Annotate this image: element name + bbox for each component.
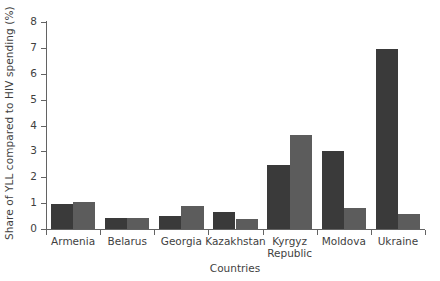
x-axis-tick <box>154 230 155 235</box>
x-axis-tick <box>46 230 47 235</box>
x-axis-tick <box>425 230 426 235</box>
bar <box>73 202 95 229</box>
x-axis-line <box>46 229 425 230</box>
bar <box>267 165 289 229</box>
y-axis-tick-label: 8 <box>30 15 37 28</box>
bar <box>127 218 149 229</box>
y-axis-tick-label: 1 <box>30 196 37 209</box>
bar <box>322 151 344 229</box>
x-axis-tick <box>371 230 372 235</box>
y-axis-tick-label: 4 <box>30 119 37 132</box>
y-axis-tick-label: 2 <box>30 170 37 183</box>
bar <box>213 212 235 229</box>
y-axis-tick-label: 0 <box>30 222 37 235</box>
x-axis-tick <box>100 230 101 235</box>
x-axis-tick <box>317 230 318 235</box>
bars-layer <box>46 22 425 229</box>
bar <box>51 204 73 229</box>
bar-chart: Share of YLL compared to HIV spending (%… <box>0 0 440 281</box>
bar <box>344 208 366 229</box>
bar <box>376 49 398 229</box>
bar <box>105 218 127 229</box>
x-axis-category-label: Ukraine <box>365 236 431 248</box>
y-axis-tick-label: 7 <box>30 41 37 54</box>
bar <box>236 219 258 229</box>
bar <box>181 206 203 229</box>
x-axis-title: Countries <box>45 262 425 274</box>
y-axis-tick-label: 3 <box>30 144 37 157</box>
bar <box>290 135 312 229</box>
y-axis-title: Share of YLL compared to HIV spending (%… <box>2 8 16 240</box>
bar <box>398 214 420 229</box>
bar <box>159 216 181 229</box>
y-axis-tick-label: 5 <box>30 93 37 106</box>
y-axis-tick-label: 6 <box>30 67 37 80</box>
